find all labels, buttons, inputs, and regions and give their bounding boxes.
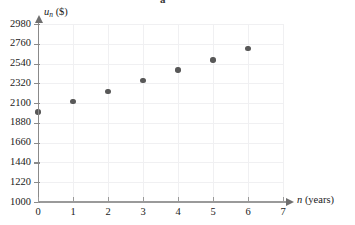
- x-axis-tick: [108, 197, 109, 203]
- y-axis-title: un ($): [44, 6, 68, 19]
- data-point: [105, 89, 110, 94]
- gridline-horizontal: [38, 162, 283, 163]
- data-point: [70, 99, 75, 104]
- plot-area: [38, 24, 283, 202]
- x-axis-title-variable: n: [297, 194, 302, 205]
- y-axis-tick-label: 2100: [10, 98, 31, 109]
- y-axis-title-unit: ($): [56, 6, 68, 17]
- y-axis-tick-label: 2760: [10, 38, 31, 49]
- x-axis-tick-label: 3: [133, 206, 153, 217]
- gridline-vertical: [178, 24, 179, 202]
- data-point: [175, 67, 180, 72]
- gridline-horizontal: [38, 123, 283, 124]
- y-axis-tick-label: 1660: [10, 137, 31, 148]
- gridline-vertical: [213, 24, 214, 202]
- x-axis-tick: [178, 197, 179, 203]
- gridline-horizontal: [38, 83, 283, 84]
- y-axis-tick: [34, 64, 40, 65]
- x-axis-tick: [73, 197, 74, 203]
- x-axis-tick: [248, 197, 249, 203]
- gridline-vertical: [108, 24, 109, 202]
- data-point: [140, 78, 145, 83]
- y-axis-tick-label: 1440: [10, 157, 31, 168]
- y-axis-tick: [34, 182, 40, 183]
- y-axis-tick: [34, 44, 40, 45]
- x-axis-title-unit: (years): [305, 194, 334, 205]
- y-axis-tick: [34, 143, 40, 144]
- x-axis-tick-label: 6: [238, 206, 258, 217]
- x-axis-tick-label: 2: [98, 206, 118, 217]
- data-point: [245, 46, 250, 51]
- y-axis-tick-label: 2540: [10, 58, 31, 69]
- x-axis-tick-label: 4: [168, 206, 188, 217]
- gridline-vertical: [143, 24, 144, 202]
- y-axis-title-subscript: n: [49, 10, 53, 19]
- y-axis-tick-label: 2980: [10, 19, 31, 30]
- y-axis-tick-labels: 1000122014401660188021002320254027602980: [0, 0, 31, 225]
- x-axis-tick-label: 7: [273, 206, 293, 217]
- gridline-vertical: [283, 24, 284, 202]
- y-axis-line: [38, 22, 39, 203]
- x-axis-arrow-icon: [286, 198, 294, 206]
- gridline-horizontal: [38, 143, 283, 144]
- x-axis-tick: [213, 197, 214, 203]
- y-axis-tick-label: 1220: [10, 177, 31, 188]
- gridline-horizontal: [38, 44, 283, 45]
- x-axis-tick-label: 1: [63, 206, 83, 217]
- y-axis-tick: [34, 162, 40, 163]
- x-axis-tick: [143, 197, 144, 203]
- x-axis-tick: [283, 197, 284, 203]
- gridline-horizontal: [38, 64, 283, 65]
- x-axis-tick-label: 0: [28, 206, 48, 217]
- data-point: [210, 57, 215, 62]
- clipped-label-glyph: a: [160, 0, 166, 5]
- x-axis-title: n (years): [297, 194, 334, 205]
- scatter-chart: a 10001220144016601880210023202540276029…: [0, 0, 355, 225]
- x-axis-tick: [38, 197, 39, 203]
- gridline-vertical: [73, 24, 74, 202]
- y-axis-tick: [34, 83, 40, 84]
- y-axis-arrow-icon: [35, 15, 43, 23]
- y-axis-tick: [34, 123, 40, 124]
- y-axis-tick-label: 1880: [10, 117, 31, 128]
- y-axis-tick: [34, 103, 40, 104]
- y-axis-tick-label: 2320: [10, 78, 31, 89]
- y-axis-tick: [34, 24, 40, 25]
- x-axis-tick-label: 5: [203, 206, 223, 217]
- gridline-horizontal: [38, 182, 283, 183]
- gridline-horizontal: [38, 24, 283, 25]
